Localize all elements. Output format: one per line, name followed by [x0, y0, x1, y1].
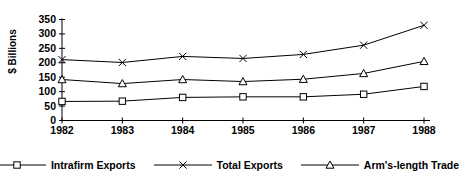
square-marker-icon	[0, 159, 46, 171]
square-marker-icon	[119, 98, 125, 104]
legend-label: Total Exports	[217, 159, 283, 171]
square-marker-icon	[179, 94, 185, 100]
square-marker-icon	[360, 91, 366, 97]
square-marker-icon	[421, 83, 427, 89]
square-marker-icon	[14, 162, 20, 168]
triangle-marker-icon	[58, 76, 66, 83]
legend-item[interactable]: Intrafirm Exports	[0, 159, 136, 171]
legend-label: Intrafirm Exports	[51, 159, 136, 171]
square-marker-icon	[240, 94, 246, 100]
legend-item[interactable]: Arm's-length Trade	[301, 159, 459, 171]
square-marker-icon	[59, 98, 65, 104]
triangle-marker-icon	[301, 159, 359, 171]
legend-label: Arm's-length Trade	[364, 159, 459, 171]
series-line	[62, 25, 424, 62]
series-1	[59, 83, 427, 104]
square-marker-icon	[300, 94, 306, 100]
series-2	[58, 22, 427, 66]
chart-legend: Intrafirm ExportsTotal ExportsArm's-leng…	[0, 155, 447, 175]
legend-item[interactable]: Total Exports	[154, 159, 283, 171]
triangle-marker-icon	[420, 57, 428, 64]
x-marker-icon	[154, 159, 212, 171]
